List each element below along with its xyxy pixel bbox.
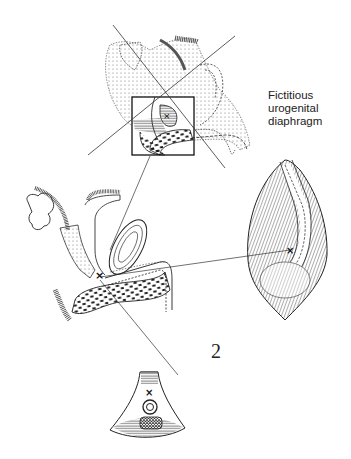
marker-x-icon: × — [163, 111, 171, 121]
marker-x-icon: × — [286, 245, 294, 256]
figure-number: 2 — [211, 340, 221, 363]
callout-line-1: Fictitious — [268, 89, 348, 102]
left-section-panel: × — [27, 188, 172, 320]
callout-label: Fictitious urogenital diaphragm — [268, 89, 348, 128]
top-section-panel: × — [88, 25, 250, 168]
callout-line-2: urogenital — [268, 102, 348, 115]
marker-x-icon: × — [95, 269, 104, 282]
right-perineal-panel: × — [248, 160, 327, 320]
bottom-cross-section-panel: × — [110, 371, 185, 437]
inset-square: × — [132, 97, 194, 155]
marker-x-icon: × — [145, 387, 153, 398]
callout-line-3: diaphragm — [268, 115, 348, 128]
anatomical-diagram: × × × — [0, 0, 351, 459]
